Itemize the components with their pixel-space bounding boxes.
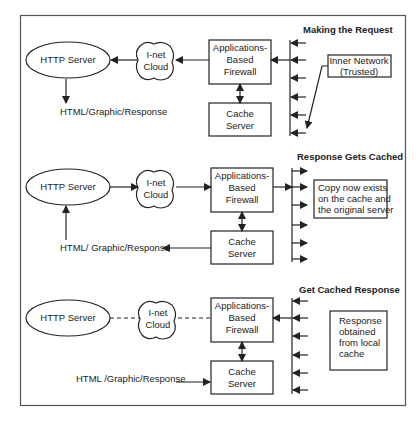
cloud-label-line2: Cloud: [146, 319, 171, 330]
response-label: HTML/Graphic/Response: [60, 106, 167, 117]
panel-response-cached: Response Gets Cached HTTP Server I-net C…: [26, 151, 403, 264]
cloud-label-line2: Cloud: [144, 189, 169, 200]
firewall-label-line2: Based: [229, 182, 256, 193]
caching-diagram: Making the Request HTTP Server I-net Clo…: [0, 0, 420, 424]
cache-label-line1: Cache: [228, 366, 255, 377]
http-server-label: HTTP Server: [40, 181, 95, 192]
cache-label-line2: Server: [228, 378, 256, 389]
cloud-label-line1: I-net: [148, 307, 167, 318]
note-line3: from local: [339, 337, 380, 348]
firewall-label-line3: Firewall: [224, 66, 257, 77]
cache-label-line1: Cache: [226, 108, 253, 119]
firewall-label-line1: Applications-: [215, 170, 269, 181]
panel-get-cached-response: Get Cached Response HTTP Server I-net Cl…: [26, 284, 400, 394]
panel-making-request: Making the Request HTTP Server I-net Clo…: [26, 24, 394, 136]
http-server-label: HTTP Server: [40, 312, 95, 323]
firewall-label-line2: Based: [229, 312, 256, 323]
response-label: HTML/ Graphic/Response: [60, 242, 170, 253]
note-line2: on the cache and: [318, 193, 391, 204]
firewall-label-line2: Based: [227, 54, 254, 65]
panel-title: Get Cached Response: [299, 284, 400, 295]
note-line3: the original server: [318, 204, 394, 215]
panel-title: Response Gets Cached: [297, 151, 403, 162]
firewall-label-line1: Applications-: [213, 42, 267, 53]
response-label: HTML /Graphic/Response: [76, 373, 185, 384]
note-line2: (Trusted): [340, 66, 378, 77]
cloud-label-line1: I-net: [146, 49, 165, 60]
note-line1: Inner Network: [329, 55, 388, 66]
cache-label-line2: Server: [228, 248, 256, 259]
cache-label-line2: Server: [226, 120, 254, 131]
note-line1: Response: [339, 315, 382, 326]
firewall-label-line1: Applications-: [215, 300, 269, 311]
firewall-label-line3: Firewall: [226, 194, 259, 205]
cloud-label-line1: I-net: [146, 177, 165, 188]
http-server-label: HTTP Server: [40, 54, 95, 65]
firewall-label-line3: Firewall: [226, 324, 259, 335]
note-line4: cache: [339, 348, 364, 359]
cloud-label-line2: Cloud: [144, 61, 169, 72]
cache-label-line1: Cache: [228, 236, 255, 247]
panel-title: Making the Request: [303, 24, 394, 35]
note-line2: obtained: [339, 326, 375, 337]
note-line1: Copy now exists: [318, 182, 387, 193]
